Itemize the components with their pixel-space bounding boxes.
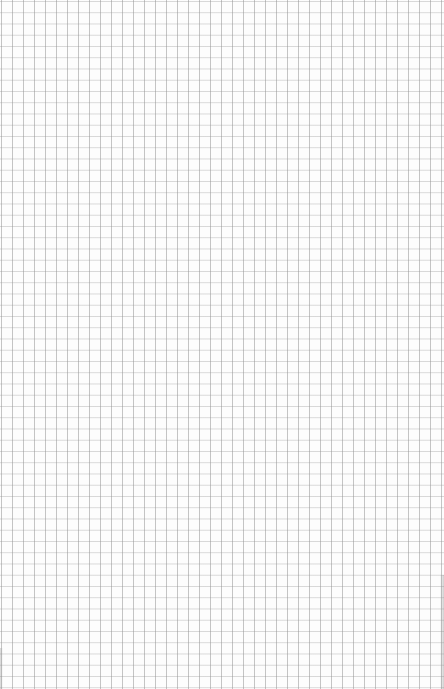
paper-edge-shadow-right: [440, 575, 444, 689]
graph-paper-sheet: Blank sheet of graph paper with a unifor…: [0, 0, 444, 689]
paper-edge-shadow-left: [0, 648, 3, 689]
